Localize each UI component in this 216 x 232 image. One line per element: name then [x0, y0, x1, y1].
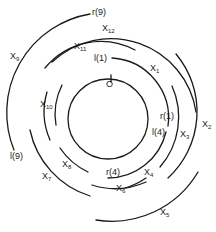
label-l4: l(4): [152, 128, 165, 137]
label-l9: l(9): [10, 152, 23, 161]
label-x4: X4: [144, 168, 153, 178]
arc-x5: [96, 172, 198, 221]
arc-x7: [30, 130, 90, 196]
label-r4: r(4): [106, 168, 120, 177]
label-x7: X7: [42, 172, 51, 182]
label-r9: r(9): [92, 8, 106, 17]
label-l1: l(1): [94, 54, 107, 63]
label-x12: X12: [102, 24, 115, 34]
label-x3: X3: [180, 130, 189, 140]
label-x5: X5: [160, 208, 169, 218]
label-x1: X1: [150, 64, 159, 74]
label-x2: X2: [202, 120, 211, 130]
label-x6: X6: [116, 184, 125, 194]
arc-x11: [45, 41, 135, 68]
label-x8: X8: [62, 160, 71, 170]
arc-x10-outer: [55, 85, 62, 125]
label-x10: X10: [40, 100, 53, 110]
label-r1: r(1): [160, 112, 174, 121]
label-x11: X11: [74, 42, 86, 52]
label-o: O: [106, 80, 113, 89]
concentric-arc-diagram: [0, 0, 216, 232]
arc-x9: [7, 14, 90, 150]
label-x9: X9: [10, 52, 19, 62]
inner-circle: [68, 79, 148, 159]
